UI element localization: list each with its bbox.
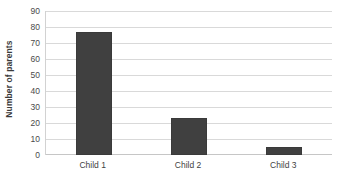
y-axis-tick-label: 0 xyxy=(35,150,40,160)
x-axis-tick-labels: Child 1Child 2Child 3 xyxy=(45,158,331,178)
bar xyxy=(266,147,302,155)
y-axis-tick-label: 90 xyxy=(31,6,40,16)
y-axis-tick-label: 30 xyxy=(31,102,40,112)
bar-chart: Number of parents 0102030405060708090 Ch… xyxy=(0,0,337,184)
x-axis-tick-label: Child 2 xyxy=(175,160,201,170)
y-axis-tick-label: 20 xyxy=(31,118,40,128)
y-axis-tick-labels: 0102030405060708090 xyxy=(18,11,44,155)
y-axis-tick-label: 50 xyxy=(31,70,40,80)
bars-layer xyxy=(46,11,332,155)
y-axis-tick-label: 10 xyxy=(31,134,40,144)
x-axis-tick-label: Child 3 xyxy=(270,160,296,170)
y-axis-tick-label: 60 xyxy=(31,54,40,64)
y-axis-tick-label: 80 xyxy=(31,22,40,32)
x-axis-tick-label: Child 1 xyxy=(79,160,105,170)
plot-area xyxy=(45,11,332,155)
bar xyxy=(76,32,112,155)
y-axis-tick-label: 70 xyxy=(31,38,40,48)
bar xyxy=(171,118,207,155)
y-axis-title-text: Number of parents xyxy=(4,40,14,117)
y-axis-tick-label: 40 xyxy=(31,86,40,96)
y-axis-title: Number of parents xyxy=(0,0,18,158)
